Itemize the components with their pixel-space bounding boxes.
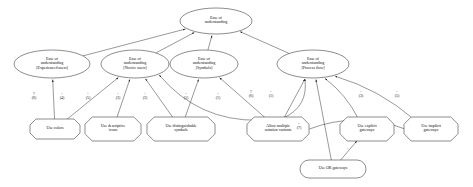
edge-label-colors-to-exp: ?(6) bbox=[27, 92, 41, 101]
edge-label-count: (3) bbox=[111, 96, 125, 100]
node-orgw[interactable] bbox=[300, 160, 366, 178]
node-implicit[interactable] bbox=[404, 117, 458, 141]
edge-label-variants-to-novice: +(1) bbox=[211, 92, 225, 101]
diagram-canvas: Ease of understandingEase of understandi… bbox=[0, 0, 473, 187]
edge-label-implicit-to-procflow: -(5) bbox=[390, 90, 404, 99]
node-novice[interactable] bbox=[101, 50, 169, 78]
node-symbols[interactable] bbox=[170, 50, 238, 78]
edge-label-icons-to-novice: +(5) bbox=[81, 92, 95, 101]
edge-label-distsym-to-symbols: +(2) bbox=[138, 92, 152, 101]
edge-label-orgw-to-explicit: + bbox=[341, 147, 355, 151]
edge-variants-to-procflow[interactable] bbox=[284, 79, 305, 118]
node-explicit[interactable] bbox=[340, 117, 394, 141]
node-distsym[interactable] bbox=[147, 117, 215, 141]
edge-label-variants-to-procflow: -(1) bbox=[264, 90, 278, 99]
node-procflow[interactable] bbox=[277, 50, 349, 78]
edge-label-explicit-to-procflow: +(3) bbox=[354, 90, 368, 99]
edge-variants-to-symbols[interactable] bbox=[220, 78, 266, 119]
edge-label-count: (6) bbox=[27, 96, 41, 100]
edge-label-variants-to-symbols: -(1) bbox=[179, 92, 193, 101]
edge-symbols-to-root[interactable] bbox=[208, 35, 212, 50]
edge-label-count: (5) bbox=[390, 94, 404, 98]
edge-procflow-to-root[interactable] bbox=[240, 32, 289, 54]
edge-label-count: (5) bbox=[81, 96, 95, 100]
node-colors[interactable] bbox=[30, 119, 80, 139]
edge-label-count: (1) bbox=[211, 96, 225, 100]
node-exp[interactable] bbox=[14, 50, 90, 78]
edge-label-count: (1) bbox=[264, 94, 278, 98]
edge-label-count: (1) bbox=[179, 96, 193, 100]
edge-label-count: (3) bbox=[354, 94, 368, 98]
edge-label-count: (6) bbox=[244, 94, 258, 98]
edge-label-colors-to-novice: +(4) bbox=[55, 92, 69, 101]
edge-label-count: (7) bbox=[292, 126, 306, 130]
edge-label-sign: + bbox=[341, 147, 355, 151]
edge-label-variants-to-procflow: ?(6) bbox=[244, 90, 258, 99]
edge-label-count: (4) bbox=[55, 96, 69, 100]
node-root[interactable] bbox=[180, 8, 252, 34]
edge-label-orgw-to-procflow: -(7) bbox=[292, 122, 306, 131]
edge-orgw-to-procflow[interactable] bbox=[316, 80, 331, 161]
node-icons[interactable] bbox=[85, 117, 141, 141]
edge-label-count: (2) bbox=[138, 96, 152, 100]
edge-label-distsym-to-novice: +(3) bbox=[111, 92, 125, 101]
edge-novice-to-root[interactable] bbox=[156, 33, 195, 53]
